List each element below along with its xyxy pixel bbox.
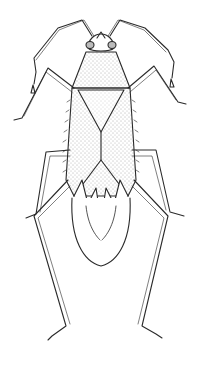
head [86,32,116,51]
insect-drawing [0,0,201,366]
figure-caption [0,356,201,366]
illustration [0,0,201,366]
pronotum [72,52,130,88]
membrane [72,198,130,266]
